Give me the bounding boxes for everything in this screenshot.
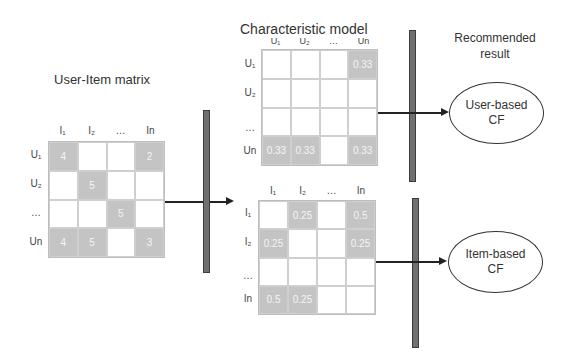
matrix-cell (346, 258, 375, 286)
col-header: U₁ (261, 36, 290, 46)
matrix-cell: 5 (107, 200, 136, 229)
matrix-cell (291, 50, 320, 79)
matrix-cell (262, 79, 291, 108)
col-header: In (136, 125, 165, 136)
matrix-cell (135, 171, 164, 200)
row-header: I₂ (240, 236, 256, 247)
matrix-cell (107, 228, 136, 257)
item-based-cf-line1: Item-based (465, 247, 525, 262)
matrix-cell (107, 171, 136, 200)
col-header: I₁ (48, 125, 77, 136)
item-based-cf-node: Item-based CF (448, 231, 543, 293)
row-header: U₁ (26, 149, 46, 160)
matrix-cell: 0.33 (262, 136, 291, 165)
col-header: In (346, 185, 376, 196)
recommended-result-line1: Recommended (450, 30, 540, 46)
matrix-cell: 4 (49, 228, 78, 257)
matrix-cell (135, 200, 164, 229)
matrix-cell (259, 201, 288, 229)
matrix-cell: 0.33 (291, 136, 320, 165)
matrix-cell (317, 286, 346, 314)
user-model-matrix: 0.33 0.33 0.33 0.33 (261, 49, 378, 166)
user-item-matrix: 4 2 5 5 4 5 3 (48, 141, 165, 258)
matrix-cell (320, 50, 349, 79)
user-based-cf-line1: User-based (465, 98, 527, 113)
recommended-result-line2: result (450, 46, 540, 62)
row-header: … (240, 270, 256, 281)
matrix-cell: 0.33 (348, 136, 377, 165)
matrix-cell (317, 229, 346, 257)
col-header: … (319, 36, 348, 46)
matrix-cell (320, 136, 349, 165)
row-header: U₂ (26, 178, 46, 189)
arrow-head-icon (226, 197, 234, 205)
col-header: Un (349, 36, 378, 46)
connector-line (378, 112, 442, 114)
matrix-cell (78, 200, 107, 229)
row-header: … (26, 207, 46, 218)
connector-line (165, 201, 227, 203)
matrix-cell (348, 79, 377, 108)
divider-bar-bottom-right (412, 198, 419, 348)
matrix-cell (107, 142, 136, 171)
row-header: I₁ (240, 207, 256, 218)
matrix-cell (259, 258, 288, 286)
matrix-cell: 4 (49, 142, 78, 171)
col-header: … (317, 185, 346, 196)
recommended-result-title: Recommended result (450, 30, 540, 62)
matrix-cell: 0.33 (348, 50, 377, 79)
matrix-cell (320, 108, 349, 137)
matrix-cell (49, 200, 78, 229)
matrix-cell (348, 108, 377, 137)
arrow-head-icon (439, 257, 447, 265)
matrix-cell (288, 229, 317, 257)
user-based-cf-line2: CF (489, 113, 505, 128)
arrow-head-icon (441, 108, 449, 116)
matrix-cell: 5 (78, 228, 107, 257)
col-header: I₁ (258, 185, 288, 196)
matrix-cell: 3 (135, 228, 164, 257)
matrix-cell: 0.5 (259, 286, 288, 314)
matrix-cell (49, 171, 78, 200)
matrix-cell: 0.25 (259, 229, 288, 257)
matrix-cell: 0.25 (346, 229, 375, 257)
matrix-cell (320, 79, 349, 108)
matrix-cell (317, 258, 346, 286)
divider-bar-middle (203, 110, 210, 273)
item-based-cf-line2: CF (488, 262, 504, 277)
item-model-matrix: 0.25 0.5 0.25 0.25 0.5 0.25 (258, 200, 376, 315)
matrix-cell (288, 258, 317, 286)
matrix-cell (262, 108, 291, 137)
row-header: U₁ (240, 58, 260, 69)
col-header: U₂ (290, 36, 319, 46)
matrix-cell: 0.5 (346, 201, 375, 229)
characteristic-model-title: Characteristic model (240, 21, 368, 37)
matrix-cell (78, 142, 107, 171)
matrix-cell (317, 201, 346, 229)
matrix-cell: 2 (135, 142, 164, 171)
user-item-matrix-title: User-Item matrix (54, 72, 150, 87)
col-header: I₂ (288, 185, 317, 196)
matrix-cell: 0.25 (288, 286, 317, 314)
user-based-cf-node: User-based CF (449, 82, 544, 144)
matrix-cell: 0.25 (288, 201, 317, 229)
row-header: In (240, 293, 256, 304)
divider-bar-top-right (409, 30, 416, 182)
row-header: U₂ (240, 87, 260, 98)
col-header: I₂ (77, 125, 106, 136)
row-header: Un (26, 236, 46, 247)
matrix-cell: 5 (78, 171, 107, 200)
matrix-cell (346, 286, 375, 314)
row-header: Un (240, 145, 260, 156)
matrix-cell (262, 50, 291, 79)
connector-line (376, 261, 440, 263)
matrix-cell (291, 79, 320, 108)
row-header: … (240, 122, 260, 133)
matrix-cell (291, 108, 320, 137)
col-header: … (106, 125, 135, 136)
